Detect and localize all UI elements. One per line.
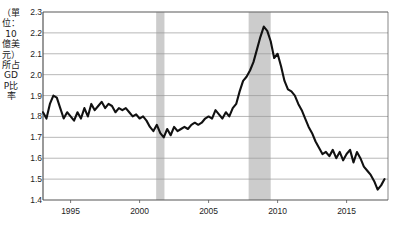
data-series-line	[43, 27, 385, 190]
chart-container: （單位：10億美元）所占GDP比率 2.32.22.12.01.91.81.71…	[0, 0, 400, 232]
recession-band-1	[156, 12, 164, 200]
plot-area	[0, 0, 400, 232]
